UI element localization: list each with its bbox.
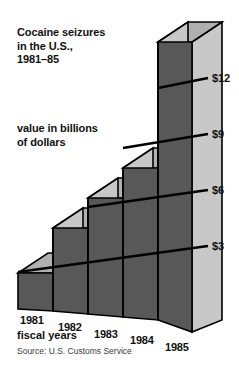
bar-front-face-1982 xyxy=(53,228,88,314)
x-axis-caption: fiscal years xyxy=(17,329,77,341)
source-note: Source: U.S. Customs Service xyxy=(17,346,132,356)
bar-front-face-1984 xyxy=(123,168,158,320)
y-axis-tick-label-9: $9 xyxy=(212,128,224,140)
chart-container: Cocaine seizures in the U.S., 1981–85 va… xyxy=(0,0,239,365)
chart-title: Cocaine seizures in the U.S., 1981–85 xyxy=(17,26,147,67)
x-axis-label-1985: 1985 xyxy=(165,341,189,353)
bar-front-face-1981 xyxy=(18,273,53,311)
chart-subtitle-line-2: of dollars xyxy=(17,136,147,150)
bar-side-face-1985 xyxy=(192,22,222,332)
x-axis-label-1984: 1984 xyxy=(130,334,154,346)
y-axis-tick-label-12: $12 xyxy=(212,72,230,84)
staircase-block xyxy=(18,22,222,332)
y-axis-tick-label-3: $3 xyxy=(212,240,224,252)
x-axis-label-1983: 1983 xyxy=(94,328,118,340)
x-axis-label-1981: 1981 xyxy=(20,314,44,326)
chart-title-line-3: 1981–85 xyxy=(17,53,147,67)
y-axis-tick-label-6: $6 xyxy=(212,184,224,196)
chart-title-line-2: in the U.S., xyxy=(17,40,147,54)
chart-subtitle-line-1: value in billions xyxy=(17,122,147,136)
chart-subtitle: value in billions of dollars xyxy=(17,122,147,149)
chart-title-line-1: Cocaine seizures xyxy=(17,26,147,40)
